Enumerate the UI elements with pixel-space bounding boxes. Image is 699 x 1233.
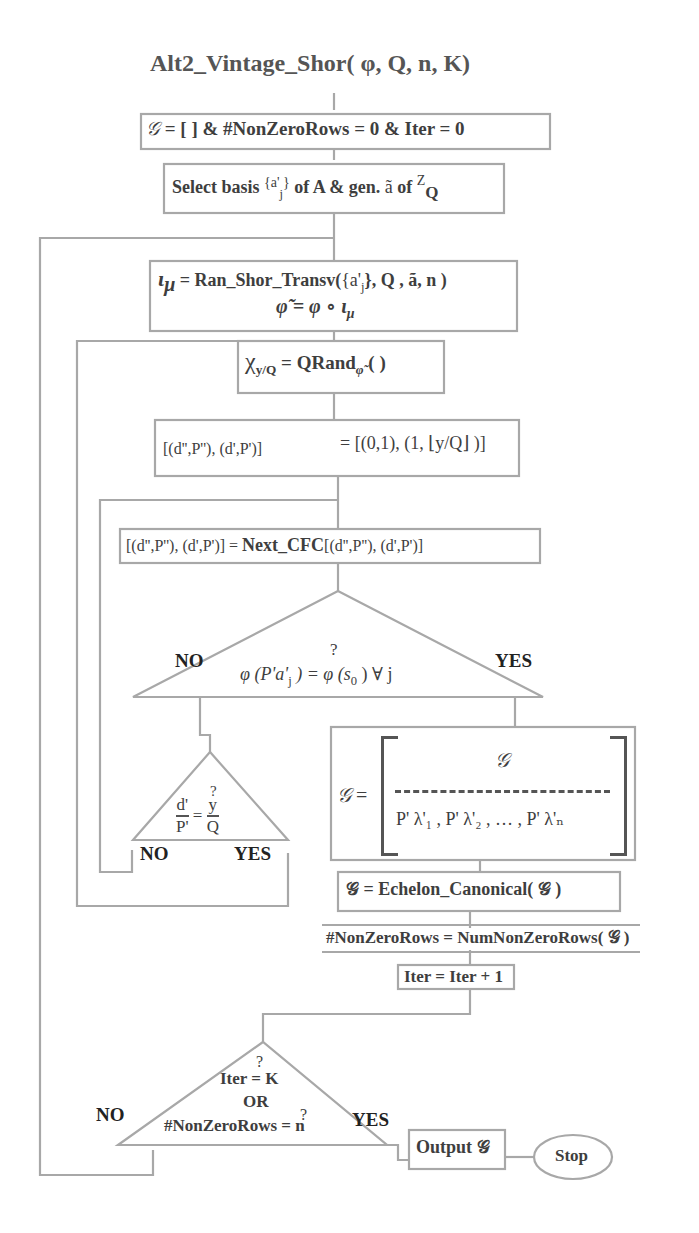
decision3-line2: OR xyxy=(243,1092,269,1112)
decision3-no-label: NO xyxy=(96,1104,125,1126)
stop-terminal: Stop xyxy=(555,1146,588,1166)
output-node: Output 𝒢 xyxy=(416,1137,490,1158)
decision3-line3: #NonZeroRows = n xyxy=(164,1116,305,1136)
decision3-yes-label: YES xyxy=(352,1109,389,1131)
iter-increment-node: Iter = Iter + 1 xyxy=(404,967,503,987)
decision3-line1: Iter = K xyxy=(220,1069,278,1089)
nonzero-box-lines xyxy=(0,0,699,1233)
